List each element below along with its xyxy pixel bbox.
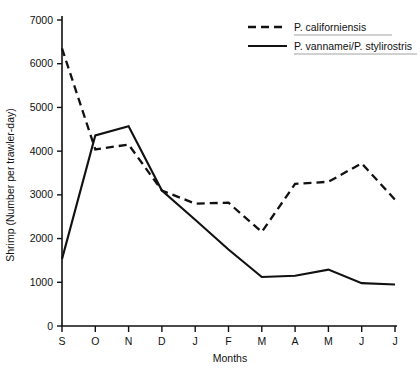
x-axis-ticks: SONDJFMAMJJ xyxy=(58,326,397,347)
x-tick-label: S xyxy=(58,335,65,347)
x-tick-label: J xyxy=(193,335,198,347)
x-tick-label: M xyxy=(324,335,333,347)
y-tick-label: 0 xyxy=(47,320,53,332)
chart-legend: P. californiensis P. vannamei/P. styliro… xyxy=(248,21,417,54)
x-tick-label: J xyxy=(392,335,397,347)
x-tick-label: A xyxy=(292,335,299,347)
x-tick-label: D xyxy=(158,335,166,347)
y-axis-title: Shrimp (Number per trawler-day) xyxy=(4,108,16,261)
y-axis-ticks: 01000200030004000500060007000 xyxy=(30,14,62,332)
x-tick-label: F xyxy=(225,335,231,347)
series-line-p-californiensis xyxy=(62,48,395,232)
series-line-p-vannamei-p-stylirostris xyxy=(62,126,395,284)
x-axis-title: Months xyxy=(213,352,247,364)
x-tick-label: J xyxy=(359,335,364,347)
y-tick-label: 5000 xyxy=(30,101,54,113)
y-tick-label: 4000 xyxy=(30,145,54,157)
y-tick-label: 7000 xyxy=(30,14,54,26)
y-tick-label: 1000 xyxy=(30,276,54,288)
legend-label-p-vannamei-p-stylirostris: P. vannamei/P. stylirostris xyxy=(294,40,412,52)
legend-label-p-californiensis: P. californiensis xyxy=(294,21,366,33)
y-tick-label: 6000 xyxy=(30,57,54,69)
x-tick-label: M xyxy=(257,335,266,347)
chart-figure: 01000200030004000500060007000 SONDJFMAMJ… xyxy=(0,0,420,373)
x-tick-label: O xyxy=(91,335,99,347)
x-tick-label: N xyxy=(125,335,133,347)
y-tick-label: 3000 xyxy=(30,188,54,200)
y-tick-label: 2000 xyxy=(30,232,54,244)
line-chart: 01000200030004000500060007000 SONDJFMAMJ… xyxy=(0,0,420,373)
